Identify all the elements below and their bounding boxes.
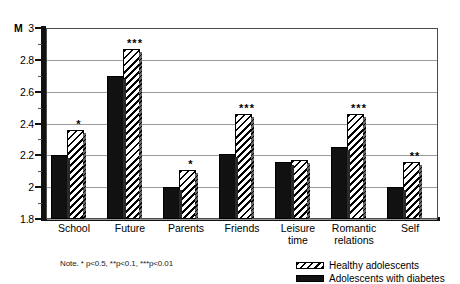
bar-adolescents-with-diabetes — [275, 162, 292, 219]
bar-adolescents-with-diabetes — [331, 147, 348, 219]
chart-note: Note. * p<0.5, **p<0.1, ***p<0.01 — [60, 259, 173, 268]
bar-group: *** — [102, 28, 158, 219]
significance-annotation: *** — [227, 105, 267, 111]
x-axis-category-labels: SchoolFutureParentsFriendsLeisure timeRo… — [46, 222, 438, 256]
y-axis-tick — [35, 154, 41, 156]
y-axis-minor-tick — [38, 44, 42, 45]
legend-item: Adolescents with diabetes — [296, 273, 445, 284]
significance-annotation: ** — [395, 153, 435, 159]
bar-group: *** — [214, 28, 270, 219]
significance-annotation: * — [171, 161, 211, 167]
x-axis-category-label: Romantic relations — [326, 222, 382, 246]
y-axis-tick-label: 1.8 — [20, 214, 34, 224]
y-axis-minor-tick — [38, 171, 42, 172]
bar-group: ** — [382, 28, 438, 219]
legend-label: Adolescents with diabetes — [329, 273, 445, 284]
significance-annotation: *** — [115, 40, 155, 46]
significance-annotation: *** — [339, 105, 379, 111]
x-axis-category-label: School — [46, 222, 102, 234]
legend-swatch-solid-icon — [296, 275, 324, 282]
y-axis-tick — [35, 218, 41, 220]
y-axis-tick — [35, 59, 41, 61]
bar-adolescents-with-diabetes — [107, 76, 124, 219]
y-axis-tick — [35, 123, 41, 125]
y-axis-tick-labels: 32.82.62.42.221.8 — [0, 0, 34, 284]
y-axis-minor-tick — [38, 203, 42, 204]
y-axis-tick — [35, 186, 41, 188]
bar-group — [270, 28, 326, 219]
x-axis-category-label: Leisure time — [270, 222, 326, 246]
x-axis-category-label: Friends — [214, 222, 270, 234]
y-axis-tick-label: 3 — [28, 23, 34, 33]
legend-item: Healthy adolescents — [296, 260, 445, 272]
legend-swatch-hatch-icon — [296, 262, 324, 269]
y-axis-minor-tick — [38, 139, 42, 140]
x-axis-category-label: Parents — [158, 222, 214, 234]
bar-adolescents-with-diabetes — [51, 155, 68, 219]
y-axis-minor-tick — [38, 108, 42, 109]
legend-label: Healthy adolescents — [329, 260, 419, 272]
y-axis-tick-label: 2.4 — [20, 119, 34, 129]
bars-layer: ************* — [46, 28, 438, 219]
bar-group: * — [46, 28, 102, 219]
y-axis-tick-label: 2 — [28, 182, 34, 192]
y-axis-tick-label: 2.2 — [20, 150, 34, 160]
y-axis-tick-label: 2.6 — [20, 87, 34, 97]
gridline — [47, 219, 437, 220]
significance-annotation: * — [59, 121, 99, 127]
bar-adolescents-with-diabetes — [219, 154, 236, 219]
bar-group: * — [158, 28, 214, 219]
y-axis-tick — [35, 91, 41, 93]
y-axis-tick — [35, 27, 41, 29]
y-axis-minor-tick — [38, 76, 42, 77]
x-axis-category-label: Self — [382, 222, 438, 234]
bar-adolescents-with-diabetes — [163, 187, 180, 219]
x-axis-category-label: Future — [102, 222, 158, 234]
bar-group: *** — [326, 28, 382, 219]
chart-legend: Healthy adolescentsAdolescents with diab… — [296, 260, 445, 284]
bar-adolescents-with-diabetes — [387, 187, 404, 219]
y-axis-tick-label: 2.8 — [20, 55, 34, 65]
